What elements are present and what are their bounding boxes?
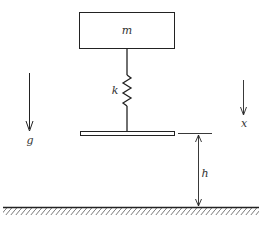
gravity-label: g xyxy=(26,134,33,147)
ground xyxy=(3,208,259,216)
gravity-arrow: g xyxy=(26,73,34,147)
height-label: h xyxy=(201,167,208,180)
height-arrow: h xyxy=(196,135,209,206)
mass-label: m xyxy=(122,24,132,37)
plate xyxy=(81,132,175,136)
displacement-arrow: x xyxy=(241,80,248,130)
mass-block: m xyxy=(80,13,175,49)
spring-constant-label: k xyxy=(112,84,119,97)
displacement-label: x xyxy=(241,117,248,130)
mass-spring-diagram: m k g x h xyxy=(0,0,265,229)
spring: k xyxy=(112,49,131,132)
